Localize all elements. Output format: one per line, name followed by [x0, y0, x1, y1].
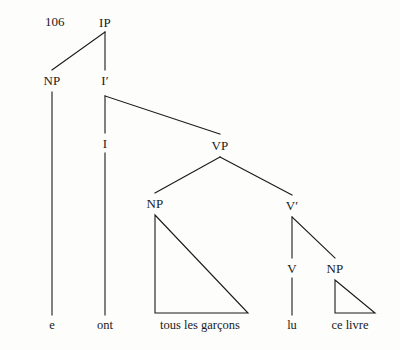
- terminal-label-t-e: e: [49, 319, 55, 332]
- node-label-ip: IP: [99, 16, 111, 29]
- terminal-label-t-garcons: tous les garçons: [160, 319, 240, 332]
- terminal-label-t-lu: lu: [287, 319, 297, 332]
- node-label-vp: VP: [211, 139, 228, 152]
- node-label-vbar: V′: [286, 199, 299, 212]
- terminal-label-t-ont: ont: [97, 319, 113, 332]
- branch-line-vbar-to-npobj2: [292, 217, 335, 258]
- triangle-tous-les-garcons: [155, 215, 248, 313]
- node-label-ibar: I′: [101, 74, 109, 87]
- node-label-np-subj: NP: [43, 74, 60, 87]
- node-label-i: I: [103, 137, 108, 150]
- triangle-ce-livre: [335, 280, 375, 313]
- syntax-tree-figure: 106 IPNPI′IVPNPV′VNP eonttous les garçon…: [0, 0, 400, 350]
- figure-number: 106: [45, 15, 65, 28]
- tree-lines-svg: [0, 0, 400, 350]
- branch-line-ip-to-np: [52, 32, 105, 70]
- branch-line-ibar-to-vp: [105, 96, 220, 134]
- terminal-label-t-celivre: ce livre: [331, 319, 368, 332]
- node-label-v: V: [287, 262, 297, 275]
- branch-line-vp-to-npobj1: [155, 157, 220, 193]
- branch-line-vp-to-vbar: [220, 157, 292, 195]
- node-label-np-obj2: NP: [326, 262, 343, 275]
- node-label-np-obj1: NP: [146, 197, 163, 210]
